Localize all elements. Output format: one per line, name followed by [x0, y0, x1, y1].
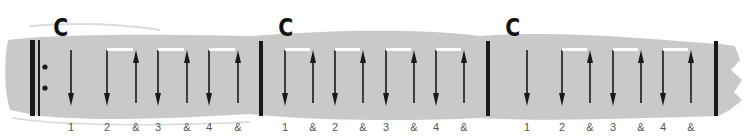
beat-count: & — [583, 121, 597, 133]
beat-count: & — [231, 121, 245, 133]
beat-count: 2 — [555, 121, 569, 133]
beat-count: 3 — [151, 121, 165, 133]
background-band — [5, 31, 742, 120]
eighth-beam — [663, 48, 688, 51]
eighth-beam — [613, 48, 638, 51]
beat-count: 3 — [606, 121, 620, 133]
beat-count: & — [180, 121, 194, 133]
eighth-beam — [285, 48, 310, 51]
beat-count: & — [634, 121, 648, 133]
beat-count: 4 — [202, 121, 216, 133]
repeat-thick-barline — [30, 40, 35, 116]
eighth-beam — [562, 48, 587, 51]
eighth-beam — [209, 48, 235, 51]
barline — [486, 41, 490, 116]
beat-count: 4 — [656, 121, 670, 133]
eighth-beam — [335, 48, 360, 51]
barline — [259, 41, 263, 116]
eighth-beam — [386, 48, 411, 51]
chord-symbol: C — [278, 16, 293, 40]
beat-count: 1 — [64, 121, 78, 133]
beat-count: & — [356, 121, 370, 133]
beat-count: 2 — [100, 121, 114, 133]
beat-count: & — [407, 121, 421, 133]
repeat-dot — [42, 85, 47, 90]
beat-count: 1 — [520, 121, 534, 133]
chord-symbol: C — [53, 16, 68, 40]
beat-count: 4 — [429, 121, 443, 133]
beat-count: & — [684, 121, 698, 133]
beat-count: 2 — [328, 121, 342, 133]
beat-count: 1 — [278, 121, 292, 133]
repeat-dot — [42, 64, 47, 69]
strum-notation — [0, 0, 752, 140]
final-barline — [714, 41, 718, 116]
repeat-thin-barline — [38, 40, 40, 116]
eighth-beam — [158, 48, 184, 51]
beat-count: & — [306, 121, 320, 133]
beat-count: & — [457, 121, 471, 133]
eighth-beam — [436, 48, 461, 51]
eighth-beam — [107, 48, 133, 51]
beat-count: 3 — [379, 121, 393, 133]
chord-symbol: C — [505, 16, 520, 40]
beat-count: & — [129, 121, 143, 133]
